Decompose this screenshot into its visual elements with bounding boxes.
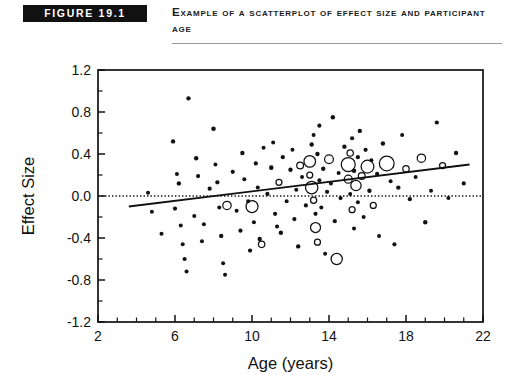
data-point <box>349 207 355 213</box>
data-point <box>408 197 412 201</box>
data-point <box>317 178 321 182</box>
data-point <box>400 133 404 137</box>
data-point <box>221 261 225 265</box>
x-tick-label: 6 <box>171 328 179 344</box>
y-tick-label: -0.4 <box>67 230 91 246</box>
data-point <box>417 154 425 162</box>
x-tick-label: 18 <box>398 328 414 344</box>
data-point <box>317 124 321 128</box>
data-point <box>446 196 450 200</box>
data-point <box>312 133 316 137</box>
data-point <box>238 229 242 233</box>
data-point <box>202 222 206 226</box>
scatterplot-figure: -1.2-0.8-0.40.00.40.81.2 2610141822 Effe… <box>0 52 518 375</box>
data-point <box>363 148 367 152</box>
data-point <box>246 201 258 213</box>
x-tick-label: 10 <box>244 328 260 344</box>
data-point <box>423 220 427 224</box>
data-point <box>294 188 298 192</box>
data-point <box>213 163 217 167</box>
data-point <box>181 242 185 246</box>
data-point <box>300 175 304 179</box>
data-point <box>223 201 231 209</box>
data-point <box>185 270 189 274</box>
y-axis-title: Effect Size <box>19 157 37 236</box>
data-point <box>248 249 252 253</box>
data-point <box>304 156 316 168</box>
data-point <box>350 136 354 140</box>
data-point <box>279 231 283 235</box>
data-point <box>297 162 304 169</box>
data-point <box>321 167 325 171</box>
data-point <box>369 158 373 162</box>
data-point <box>313 212 317 216</box>
data-point <box>377 234 381 238</box>
data-point <box>269 165 274 170</box>
data-point <box>314 239 320 245</box>
data-point <box>235 209 239 213</box>
data-point <box>231 170 235 174</box>
data-point <box>194 156 198 160</box>
data-point <box>352 227 356 231</box>
data-point <box>435 120 439 124</box>
data-point <box>309 142 313 146</box>
data-point <box>356 155 360 159</box>
y-tick-label: 0.0 <box>72 188 92 204</box>
data-point <box>288 168 292 172</box>
data-point <box>342 144 346 148</box>
regression-line <box>129 165 470 207</box>
data-point <box>315 152 319 156</box>
data-point <box>285 199 289 203</box>
data-point <box>256 186 260 190</box>
figure-number-badge: FIGURE 19.1 <box>23 5 147 22</box>
data-point <box>281 155 285 159</box>
data-point <box>292 217 296 221</box>
data-point <box>173 207 177 211</box>
y-axis-tick-labels: -1.2-0.8-0.40.00.40.81.2 <box>67 62 91 330</box>
data-point <box>338 196 342 200</box>
data-point <box>307 172 313 178</box>
data-point <box>429 189 433 193</box>
data-point <box>311 197 317 203</box>
data-point <box>392 242 396 246</box>
data-point <box>325 155 334 164</box>
y-tick-label: 0.4 <box>72 146 92 162</box>
data-point <box>358 129 362 133</box>
data-point <box>177 181 181 185</box>
data-point <box>160 232 164 236</box>
data-point <box>331 253 342 264</box>
x-tick-label: 14 <box>321 328 337 344</box>
data-point <box>304 203 308 207</box>
data-point <box>186 96 190 100</box>
figure-header: FIGURE 19.1 Example of a Scatterplot of … <box>0 0 518 52</box>
data-point <box>319 206 323 210</box>
data-point <box>200 239 204 243</box>
x-tick-label: 22 <box>475 328 491 344</box>
data-point <box>362 215 366 219</box>
data-point <box>414 175 418 179</box>
data-point <box>240 151 244 155</box>
x-tick-label: 2 <box>94 328 102 344</box>
data-point <box>352 169 356 173</box>
data-points <box>146 96 466 277</box>
header-divider <box>172 43 502 44</box>
data-point <box>208 187 212 191</box>
data-point <box>296 244 300 248</box>
data-point <box>356 200 360 204</box>
data-point <box>175 172 179 176</box>
data-point <box>367 189 371 193</box>
data-point <box>271 140 275 144</box>
data-point <box>333 219 337 223</box>
data-point <box>196 174 200 178</box>
data-point <box>150 210 154 214</box>
data-point <box>311 223 321 233</box>
data-point <box>275 224 279 228</box>
data-point <box>323 252 327 256</box>
data-point <box>242 177 246 181</box>
data-point <box>276 179 282 185</box>
y-tick-label: -0.8 <box>67 272 91 288</box>
x-axis-title: Age (years) <box>248 354 333 372</box>
data-point <box>454 151 458 155</box>
data-point <box>396 185 400 189</box>
data-point <box>347 150 353 156</box>
